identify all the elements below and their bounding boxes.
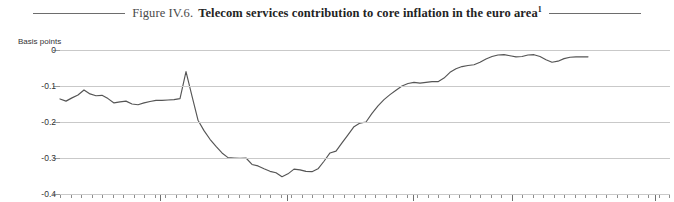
x-tick-minor [438, 195, 439, 198]
title-rule-left [33, 13, 125, 14]
y-tick-label: -0.4 [41, 189, 56, 199]
x-tick-minor [449, 195, 450, 198]
x-tick-minor [354, 195, 355, 198]
x-tick-minor [260, 195, 261, 198]
x-tick-minor [155, 195, 156, 198]
x-tick-minor [249, 195, 250, 198]
x-tick-major [512, 195, 513, 201]
x-tick-minor [627, 195, 628, 198]
x-tick-major [413, 195, 414, 201]
x-tick-minor [522, 195, 523, 198]
x-tick-minor [60, 195, 61, 198]
x-tick-minor [428, 195, 429, 198]
x-tick-minor [228, 195, 229, 198]
gridline-y-0 [60, 50, 670, 51]
x-tick-minor [470, 195, 471, 198]
figure-title-text: Telecom services contribution to core in… [198, 6, 538, 20]
x-tick-minor [533, 195, 534, 198]
x-tick-minor [134, 195, 135, 198]
x-tick-minor [554, 195, 555, 198]
x-tick-minor [323, 195, 324, 198]
plot-area: 0-0.1-0.2-0.3-0.419992000010203 [60, 50, 670, 194]
x-tick-minor [543, 195, 544, 198]
x-tick-minor [585, 195, 586, 198]
x-tick-minor [239, 195, 240, 198]
x-tick-major [655, 195, 656, 201]
x-tick-minor [333, 195, 334, 198]
x-tick-minor [207, 195, 208, 198]
x-tick-minor [417, 195, 418, 198]
figure-title-band: Figure IV.6.Telecom services contributio… [0, 0, 674, 26]
gridline-y--0_2 [60, 122, 670, 123]
x-tick-minor [144, 195, 145, 198]
figure-number-label: Figure IV.6. [132, 6, 193, 20]
x-tick-major [160, 195, 161, 201]
x-tick-minor [575, 195, 576, 198]
x-tick-minor [302, 195, 303, 198]
x-tick-minor [102, 195, 103, 198]
x-tick-minor [459, 195, 460, 198]
footnote-marker: 1 [538, 5, 542, 14]
line-chart: Basis points 0-0.1-0.2-0.3-0.41999200001… [0, 26, 674, 202]
x-tick-minor [344, 195, 345, 198]
series-layer [60, 50, 670, 200]
x-tick-minor [165, 195, 166, 198]
x-tick-minor [386, 195, 387, 198]
x-tick-minor [186, 195, 187, 198]
x-tick-minor [218, 195, 219, 198]
x-tick-minor [491, 195, 492, 198]
x-tick-minor [564, 195, 565, 198]
x-tick-minor [648, 195, 649, 198]
x-tick-minor [606, 195, 607, 198]
x-tick-minor [92, 195, 93, 198]
x-tick-minor [312, 195, 313, 198]
x-tick-minor [480, 195, 481, 198]
title-rule-right [549, 13, 641, 14]
x-tick-minor [291, 195, 292, 198]
x-tick-minor [281, 195, 282, 198]
x-tick-minor [81, 195, 82, 198]
x-tick-minor [365, 195, 366, 198]
y-tick-label: -0.2 [41, 117, 56, 127]
y-tick-label: -0.3 [41, 153, 56, 163]
x-tick-minor [617, 195, 618, 198]
x-tick-minor [123, 195, 124, 198]
x-tick-minor [396, 195, 397, 198]
x-tick-minor [659, 195, 660, 198]
y-tick-label: -0.1 [41, 81, 56, 91]
x-tick-minor [375, 195, 376, 198]
figure-title: Figure IV.6.Telecom services contributio… [132, 5, 542, 21]
x-tick-major [287, 195, 288, 201]
x-tick-minor [197, 195, 198, 198]
x-tick-minor [669, 195, 670, 198]
gridline-y--0_3 [60, 158, 670, 159]
x-tick-minor [270, 195, 271, 198]
x-tick-minor [596, 195, 597, 198]
x-tick-minor [71, 195, 72, 198]
x-tick-minor [501, 195, 502, 198]
x-tick-minor [113, 195, 114, 198]
y-tick-label: 0 [51, 45, 56, 55]
gridline-y--0_1 [60, 86, 670, 87]
x-tick-minor [407, 195, 408, 198]
x-tick-minor [638, 195, 639, 198]
x-tick-minor [176, 195, 177, 198]
